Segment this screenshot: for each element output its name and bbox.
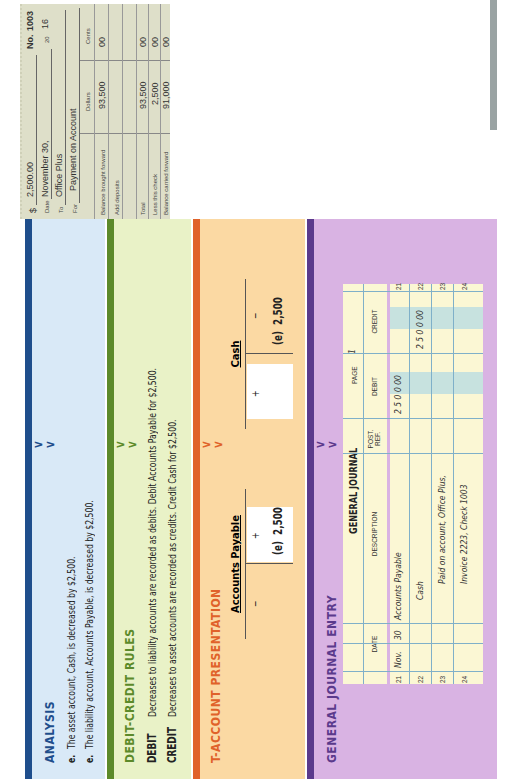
- description: Invoice 2223, Check 1003: [459, 485, 469, 585]
- t-account-rule: [245, 489, 246, 639]
- line-number: 24: [461, 676, 468, 683]
- stub-row-label: Balance carried forward: [163, 152, 169, 215]
- col-dollars: Dollars: [85, 92, 91, 111]
- t-account-rule: [245, 563, 293, 564]
- chevron-down-icon: ∨: [325, 440, 339, 449]
- t-account-sign: −: [249, 313, 261, 319]
- t-account-title: Cash: [229, 279, 242, 429]
- credit-rule: Decreases to asset accounts are recorded…: [166, 419, 178, 717]
- line-number: 21: [395, 676, 402, 683]
- stub-row-dollars: 91,000: [161, 81, 171, 109]
- t-account-entry-value: 2,500: [271, 507, 285, 535]
- line-number: 22: [417, 676, 424, 683]
- to-label: To: [58, 207, 64, 213]
- check-memo: Payment on Account: [68, 108, 78, 191]
- t-account-section: ∨ ∨ T-ACCOUNT PRESENTATION Accounts Paya…: [193, 219, 305, 779]
- t-account-rule: [245, 353, 293, 354]
- analysis-line: The liability account, Accounts Payable,…: [83, 500, 95, 749]
- check-amount: 2,500.00: [25, 162, 35, 197]
- debit-credit-heading: DEBIT-CREDIT RULES: [123, 629, 137, 764]
- t-account-heading: T-ACCOUNT PRESENTATION: [209, 588, 223, 763]
- credit-amount: 2 5 0 0 00: [415, 310, 425, 349]
- general-journal-table: GENERAL JOURNAL PAGE 1 DATE DESCRIPTION …: [343, 284, 483, 684]
- col-date: DATE: [371, 624, 378, 664]
- analysis-marker: e.: [65, 755, 77, 763]
- chevron-down-icon: ∨: [43, 440, 57, 449]
- analysis-section: ∨ ∨ ANALYSIS e. The asset account, Cash,…: [25, 219, 105, 779]
- page-rotated: ∨ ∨ ANALYSIS e. The asset account, Cash,…: [0, 0, 526, 779]
- stub-row-cents: 00: [161, 37, 171, 47]
- stub-row-label: Less this check: [152, 174, 158, 215]
- stub-row-dollars: 2,500: [150, 82, 160, 105]
- stub-row-label: Add deposits: [114, 180, 120, 215]
- description: Cash: [415, 581, 425, 600]
- col-credit: CREDIT: [371, 294, 378, 349]
- t-account-entry-label: (e): [271, 331, 285, 345]
- date-day: 30: [393, 630, 403, 640]
- journal-title: GENERAL JOURNAL: [347, 448, 360, 534]
- shade: [390, 307, 483, 329]
- grid-line: [387, 284, 390, 684]
- description: Paid on account, Office Plus,: [437, 475, 447, 584]
- t-account-bar: [193, 219, 200, 779]
- line-number: 23: [439, 676, 446, 683]
- col-description: DESCRIPTION: [371, 474, 378, 594]
- analysis-line: The asset account, Cash, is decreased by…: [65, 556, 77, 749]
- debit-rule: Decreases to liability accounts are reco…: [146, 368, 158, 717]
- journal-heading: GENERAL JOURNAL ENTRY: [325, 595, 339, 763]
- col-debit: DEBIT: [371, 359, 378, 414]
- line-number: 21: [395, 283, 402, 290]
- debit-amount: 2 5 0 0 00: [393, 375, 403, 414]
- check-number: 1003: [25, 11, 35, 31]
- journal-entry-section: ∨ ∨ GENERAL JOURNAL ENTRY GENERAL JOURNA…: [307, 219, 497, 779]
- stub-row-cents: 00: [97, 37, 107, 47]
- check-payee: Office Plus: [54, 154, 64, 197]
- stub-row-label: Balance brought forward: [100, 150, 106, 215]
- date-month: Nov.: [393, 651, 403, 668]
- t-account-sign: +: [249, 533, 261, 539]
- shade: [390, 372, 483, 394]
- date-label: Date: [44, 200, 50, 213]
- t-account-rule: [245, 279, 246, 429]
- debit-credit-section: ∨ ∨ DEBIT-CREDIT RULES DEBIT Decreases t…: [107, 219, 191, 779]
- check-date: November 30,: [40, 140, 50, 197]
- stub-row-dollars: 93,500: [97, 81, 107, 109]
- col-post-ref: POST. REF.: [367, 424, 381, 454]
- check-year: 16: [40, 19, 50, 29]
- debit-credit-bar: [107, 219, 114, 779]
- journal-bar: [307, 219, 314, 779]
- chevron-down-icon: ∨: [125, 440, 139, 449]
- debit-label: DEBIT: [145, 734, 159, 763]
- line-number: 23: [439, 283, 446, 290]
- t-account-accounts-payable: Accounts Payable − + (e) 2,500: [229, 489, 297, 639]
- amount-label: $: [28, 208, 38, 213]
- line-number: 22: [417, 283, 424, 290]
- chevron-down-icon: ∨: [211, 440, 225, 449]
- analysis-marker: e.: [83, 755, 95, 763]
- credit-label: CREDIT: [165, 727, 179, 763]
- year-prefix: 20: [44, 36, 50, 43]
- t-account-entry-value: 2,500: [271, 297, 285, 325]
- description: Accounts Payable: [393, 552, 403, 620]
- line-number: 24: [461, 283, 468, 290]
- stub-row-dollars: 93,500: [138, 81, 148, 109]
- page-label: PAGE: [351, 366, 358, 384]
- for-label: For: [72, 204, 78, 213]
- stub-row-cents: 00: [138, 37, 148, 47]
- page-edge-bar: [490, 0, 497, 130]
- analysis-heading: ANALYSIS: [43, 701, 57, 763]
- check-stub: $ 2,500.00 No. 1003 Date November 30, 20…: [20, 4, 170, 219]
- t-account-entry-label: (e): [271, 541, 285, 555]
- col-cents: Cents: [85, 28, 91, 44]
- t-account-sign: −: [249, 601, 261, 607]
- t-account-cash: Cash + − (e) 2,500: [229, 279, 297, 429]
- check-number-label: No.: [25, 35, 35, 50]
- grid-line: [363, 284, 364, 684]
- analysis-bar: [25, 219, 32, 779]
- stub-row-cents: 00: [150, 37, 160, 47]
- t-account-sign: +: [249, 391, 261, 397]
- t-account-title: Accounts Payable: [229, 489, 242, 639]
- stub-row-label: Total: [140, 202, 146, 215]
